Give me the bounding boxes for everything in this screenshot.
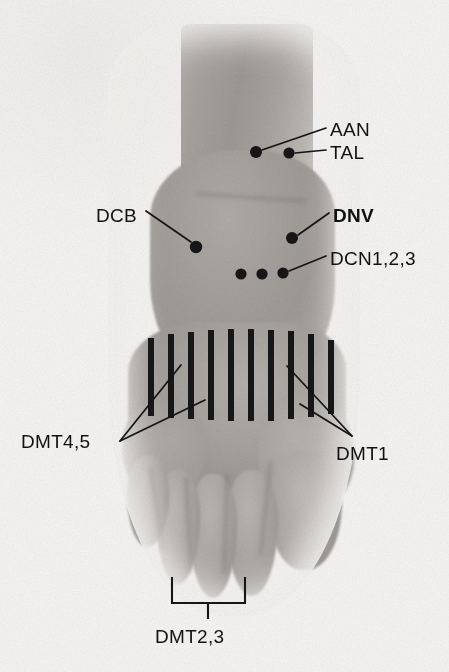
metatarsal-bar-10 — [328, 340, 334, 414]
label-dcn: DCN1,2,3 — [330, 249, 416, 268]
label-dnv: DNV — [333, 206, 374, 225]
dmt1-leader-a — [287, 366, 352, 436]
label-dmt23: DMT2,3 — [155, 627, 224, 646]
label-aan: AAN — [330, 120, 370, 139]
aan-dot[interactable] — [250, 146, 262, 158]
tal-dot[interactable] — [283, 147, 294, 158]
metatarsal-bar-8 — [288, 331, 294, 419]
anatomical-figure: AANTALDCBDNVDCN1,2,3DMT4,5DMT1DMT2,3 — [0, 0, 449, 672]
dcb-dot[interactable] — [190, 241, 202, 253]
dcn3-dot[interactable] — [277, 267, 288, 278]
metatarsal-bar-7 — [268, 330, 274, 421]
dmt23-bracket — [172, 578, 245, 618]
label-dmt1: DMT1 — [336, 444, 389, 463]
dcn1-dot[interactable] — [235, 268, 246, 279]
metatarsal-bar-6 — [248, 329, 254, 421]
dmt45-leader-b — [120, 400, 205, 441]
tal-leader — [295, 150, 326, 153]
annotation-overlay — [0, 0, 449, 672]
metatarsal-bar-4 — [208, 330, 214, 420]
dcb-leader — [146, 211, 191, 242]
label-tal: TAL — [330, 143, 364, 162]
dnv-dot[interactable] — [286, 232, 298, 244]
dnv-leader — [298, 213, 329, 235]
metatarsal-bar-5 — [228, 329, 234, 421]
metatarsal-bar-9 — [308, 334, 314, 417]
dcn2-dot[interactable] — [256, 268, 267, 279]
label-dmt45: DMT4,5 — [21, 432, 90, 451]
label-dcb: DCB — [96, 206, 137, 225]
aan-leader — [262, 128, 326, 150]
dcn-leader — [289, 256, 326, 271]
